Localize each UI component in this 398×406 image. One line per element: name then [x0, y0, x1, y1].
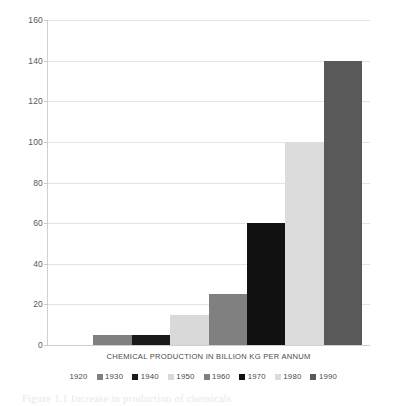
legend-label-1970: 1970	[248, 373, 266, 381]
y-tick-mark-0	[44, 345, 48, 346]
legend-label-1980: 1980	[283, 373, 301, 381]
bar-1970	[247, 223, 285, 345]
y-tick-label-40: 40	[3, 260, 43, 269]
legend-label-1920: 1920	[69, 373, 87, 381]
legend-label-1940: 1940	[141, 373, 159, 381]
y-tick-label-100: 100	[3, 138, 43, 147]
legend-item-1960[interactable]: 1960	[204, 373, 231, 381]
legend-swatch-icon-1920	[61, 374, 67, 380]
legend-label-1960: 1960	[212, 373, 230, 381]
legend-label-1930: 1930	[105, 373, 123, 381]
figure-caption-clipped: Figure 1.1 Increase in production of che…	[0, 394, 398, 406]
y-tick-label-20: 20	[3, 300, 43, 309]
figure-caption-text: Figure 1.1 Increase in production of che…	[22, 394, 231, 404]
y-tick-label-140: 140	[3, 57, 43, 66]
legend-item-1930[interactable]: 1930	[97, 373, 124, 381]
gridline-0	[48, 345, 370, 346]
y-tick-label-120: 120	[3, 97, 43, 106]
chart-legend: 19201930194019501960197019801990	[0, 373, 398, 381]
x-axis-title: CHEMICAL PRODUCTION IN BILLION KG PER AN…	[47, 352, 370, 361]
bar-1930	[93, 335, 131, 345]
y-tick-label-60: 60	[3, 219, 43, 228]
legend-label-1950: 1950	[176, 373, 194, 381]
legend-item-1940[interactable]: 1940	[132, 373, 159, 381]
y-tick-label-0: 0	[3, 341, 43, 350]
legend-swatch-icon-1930	[97, 374, 103, 380]
bars-layer	[47, 20, 370, 345]
bar-chart: 160140120100806040200 CHEMICAL PRODUCTIO…	[0, 0, 398, 406]
legend-swatch-icon-1960	[204, 374, 210, 380]
legend-swatch-icon-1970	[239, 374, 245, 380]
y-tick-label-160: 160	[3, 16, 43, 25]
legend-item-1920[interactable]: 1920	[61, 373, 88, 381]
plot-wrapper: 160140120100806040200	[0, 0, 398, 352]
bar-1980	[285, 142, 323, 345]
y-tick-label-80: 80	[3, 179, 43, 188]
legend-swatch-icon-1950	[168, 374, 174, 380]
legend-item-1950[interactable]: 1950	[168, 373, 195, 381]
legend-item-1980[interactable]: 1980	[275, 373, 302, 381]
bar-1940	[132, 335, 170, 345]
legend-swatch-icon-1990	[310, 374, 316, 380]
legend-label-1990: 1990	[319, 373, 337, 381]
legend-swatch-icon-1940	[132, 374, 138, 380]
legend-swatch-icon-1980	[275, 374, 281, 380]
bar-1950	[170, 315, 208, 345]
bar-1990	[324, 61, 362, 345]
legend-item-1970[interactable]: 1970	[239, 373, 266, 381]
bar-1960	[209, 294, 247, 345]
legend-item-1990[interactable]: 1990	[310, 373, 337, 381]
